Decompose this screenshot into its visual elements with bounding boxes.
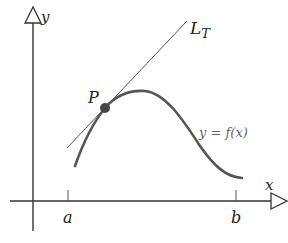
y-axis-arrow-icon	[25, 7, 41, 23]
y-axis: y	[25, 7, 50, 231]
point-p-label: P	[87, 88, 99, 107]
curve-label: y = f(x)	[198, 125, 248, 140]
tick-a: a	[63, 190, 73, 227]
tangent-line-figure: y x a b LT y = f(x) P	[0, 0, 288, 243]
x-axis-label: x	[265, 176, 274, 194]
point-p-dot	[100, 103, 110, 113]
tangent-label: LT	[189, 18, 211, 41]
tick-b: b	[231, 190, 241, 227]
x-axis-arrow-icon	[271, 193, 287, 209]
tick-a-label: a	[63, 208, 73, 227]
point-p: P	[87, 88, 110, 113]
y-axis-label: y	[40, 8, 50, 26]
function-curve: y = f(x)	[75, 91, 248, 178]
tick-b-label: b	[231, 208, 241, 227]
x-axis: x	[10, 176, 287, 209]
